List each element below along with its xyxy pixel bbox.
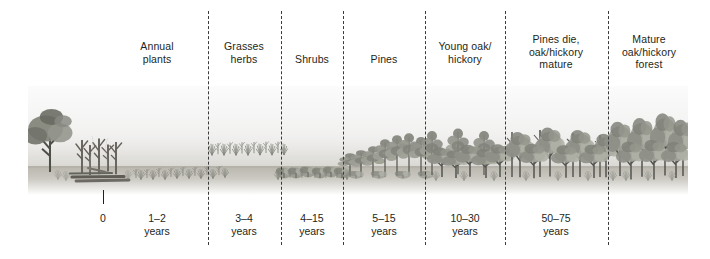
stage-label-line: hickory	[417, 53, 513, 66]
stage-divider-3	[343, 11, 344, 245]
time-label-line: years	[508, 225, 604, 238]
stage-label-line: Pines die,	[508, 33, 604, 46]
succession-figure: AnnualplantsGrassesherbsShrubsPinesYoung…	[0, 0, 710, 259]
stage-label-line: forest	[601, 58, 697, 71]
time-label-line: 1–2	[109, 212, 205, 225]
stage-label-line: Mature	[601, 33, 697, 46]
time-label-line: 10–30	[417, 212, 513, 225]
stage-label-mature-oak-hickory-forest: Matureoak/hickoryforest	[601, 33, 697, 71]
succession-artwork	[28, 86, 688, 195]
time-label-young-oak-hickory: 10–30years	[417, 212, 513, 237]
time-label-annual-plants: 1–2years	[109, 212, 205, 237]
stage-label-line: mature	[508, 58, 604, 71]
stage-label-line: Annual	[109, 40, 205, 53]
time-label-pines-die-oak-hickory-mature: 50–75years	[508, 212, 604, 237]
stage-label-annual-plants: Annualplants	[109, 40, 205, 65]
origin-tick	[103, 190, 104, 204]
stage-label-line: Grasses	[196, 40, 292, 53]
succession-illustration	[28, 86, 688, 195]
stage-label-pines-die-oak-hickory-mature: Pines die,oak/hickorymature	[508, 33, 604, 71]
axis-origin-label: 0	[83, 212, 123, 225]
stage-label-line: plants	[109, 53, 205, 66]
time-label-line: years	[109, 225, 205, 238]
stage-label-young-oak-hickory: Young oak/hickory	[417, 40, 513, 65]
stage-label-line: oak/hickory	[508, 46, 604, 59]
stage-label-line: Young oak/	[417, 40, 513, 53]
time-label-line: years	[417, 225, 513, 238]
stage-label-line: oak/hickory	[601, 46, 697, 59]
time-label-line: 50–75	[508, 212, 604, 225]
